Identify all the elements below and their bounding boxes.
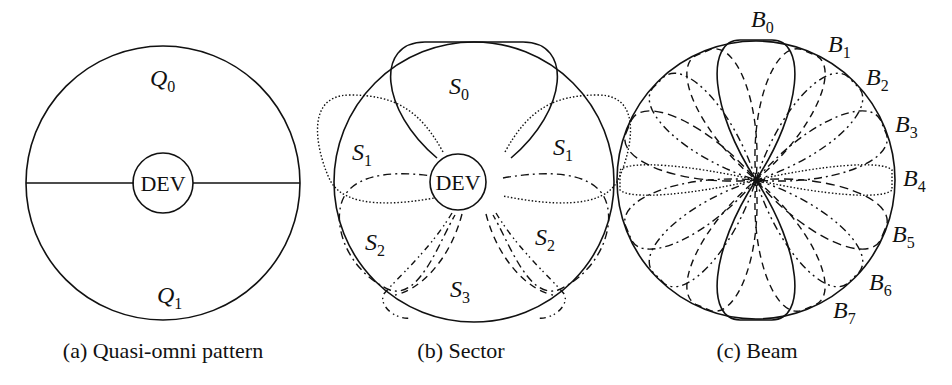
sector-label-s2-left: S2 [365,229,385,259]
caption-b: (b) Sector [417,338,505,363]
antenna-pattern-figure: DEV Q0 Q1 (a) Quasi-omni pattern DEV S0 … [0,0,952,385]
beam-label-b6: B6 [869,269,892,299]
beam-label-b2: B2 [866,64,889,94]
beam-label-b3: B3 [895,111,918,141]
dev-label-b: DEV [435,170,480,195]
sector-label-s3: S3 [450,276,470,306]
beam-label-b0: B0 [751,6,774,36]
caption-c: (c) Beam [716,338,797,363]
caption-a: (a) Quasi-omni pattern [63,338,263,363]
beam-label-b4: B4 [903,165,926,195]
sector-label-s1-left: S1 [352,139,372,169]
sector-label-s0: S0 [449,73,469,103]
sector-lobe-s3-b [496,213,565,318]
region-label-q1: Q1 [157,282,182,312]
dev-label-a: DEV [140,171,185,196]
beam-label-b5: B5 [892,221,915,251]
beam-center-point [753,177,759,183]
sector-lobe-s0 [391,42,558,158]
panel-beam [617,40,895,320]
sector-lobe-s2-right [493,174,609,291]
sector-label-s2-right: S2 [535,224,555,254]
sector-lobe-s3-a [383,213,452,318]
beam-label-b1: B1 [828,31,851,61]
beam-label-b7: B7 [833,297,856,327]
region-label-q0: Q0 [150,65,175,95]
sector-label-s1-right: S1 [553,134,573,164]
sector-lobe-s1-left [318,95,446,203]
